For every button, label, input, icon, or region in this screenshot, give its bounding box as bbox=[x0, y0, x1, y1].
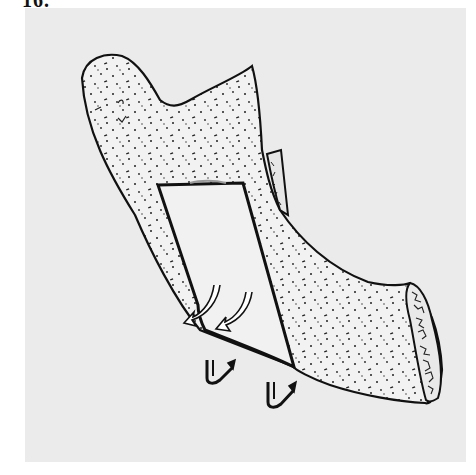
mandible-illustration bbox=[0, 0, 476, 475]
rotation-arrow-left bbox=[207, 360, 235, 383]
rotation-arrow-right bbox=[268, 382, 296, 407]
